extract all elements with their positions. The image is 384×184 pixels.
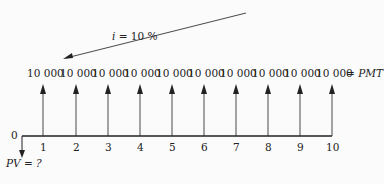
cash-flow-timeline-diagram: i = 10 % 10 00010 00010 00010 00010 0001… — [0, 0, 384, 184]
payment-arrow-head — [40, 84, 46, 94]
payment-arrow-head — [297, 84, 303, 94]
payment-arrow-head — [329, 84, 335, 94]
rate-value: = 10 % — [115, 30, 157, 42]
period-number: 10 — [326, 142, 339, 153]
present-value-label: PV = ? — [6, 158, 42, 169]
payment-arrow-head — [137, 84, 143, 94]
interest-rate-label: i = 10 % — [112, 31, 158, 42]
discount-arrow-head — [63, 53, 73, 59]
timeline-graphics — [0, 0, 384, 184]
period-number: 5 — [169, 142, 176, 153]
pmt-label: = PMT — [346, 68, 383, 79]
payment-arrow-head — [265, 84, 271, 94]
payment-amount: 10 000 — [27, 68, 64, 79]
period-number: 8 — [265, 142, 272, 153]
period-number: 4 — [137, 142, 144, 153]
period-number: 1 — [40, 142, 47, 153]
payment-arrow-head — [233, 84, 239, 94]
payment-arrow-head — [73, 84, 79, 94]
period-number: 7 — [233, 142, 240, 153]
origin-label: 0 — [11, 130, 18, 141]
period-number: 9 — [297, 142, 304, 153]
payment-arrow-head — [201, 84, 207, 94]
payment-arrow-head — [169, 84, 175, 94]
period-number: 3 — [105, 142, 112, 153]
period-number: 6 — [201, 142, 208, 153]
period-number: 2 — [73, 142, 80, 153]
payment-arrow-head — [105, 84, 111, 94]
